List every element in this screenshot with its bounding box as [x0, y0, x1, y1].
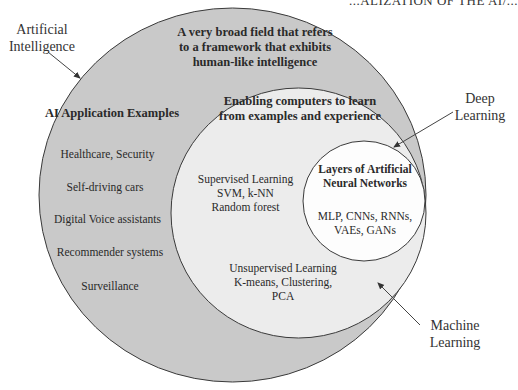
dl-label: Deep Learning [450, 91, 510, 125]
supervised-title: Supervised Learning [183, 173, 308, 187]
dl-label-line1: Deep [450, 91, 510, 108]
dl-circle [303, 141, 425, 261]
ai-label-line2: Intelligence [2, 39, 82, 56]
ai-description-line: A very broad field that refers [150, 25, 360, 40]
ml-description-line: from examples and experience [210, 109, 390, 124]
ai-description: A very broad field that refers to a fram… [150, 25, 360, 70]
ai-examples-title: AI Application Examples [45, 106, 175, 121]
ml-description-line: Enabling computers to learn [210, 94, 390, 109]
ml-label-line1: Machine [420, 318, 490, 335]
ml-unsupervised: Unsupervised Learning K-means, Clusterin… [218, 262, 348, 303]
ai-ml-dl-venn-diagram: ...ALIZATION OF THE AI/... Artificial In… [0, 0, 518, 390]
ai-arrow [48, 52, 80, 78]
ai-label: Artificial Intelligence [2, 22, 82, 56]
dl-description-line: Neural Networks [305, 177, 425, 191]
unsupervised-examples: K-means, Clustering, [218, 276, 348, 290]
ai-example-item: Surveillance [60, 280, 160, 294]
ml-label-line2: Learning [420, 335, 490, 352]
dl-examples-line: VAEs, GANs [305, 224, 425, 238]
dl-description-line: Layers of Artificial [305, 163, 425, 177]
dl-examples-line: MLP, CNNs, RNNs, [305, 210, 425, 224]
ai-example-item: Self-driving cars [45, 181, 165, 195]
ml-supervised: Supervised Learning SVM, k-NN Random for… [183, 173, 308, 214]
ml-description: Enabling computers to learn from example… [210, 94, 390, 124]
supervised-examples: Random forest [183, 201, 308, 215]
ai-example-item: Healthcare, Security [40, 148, 175, 162]
ai-example-item: Digital Voice assistants [40, 213, 175, 227]
unsupervised-examples: PCA [218, 290, 348, 304]
dl-examples: MLP, CNNs, RNNs, VAEs, GANs [305, 210, 425, 238]
ai-example-item: Recommender systems [45, 246, 175, 260]
ai-label-line1: Artificial [2, 22, 82, 39]
ml-label: Machine Learning [420, 318, 490, 352]
supervised-examples: SVM, k-NN [183, 187, 308, 201]
ai-description-line: human-like intelligence [150, 55, 360, 70]
ai-description-line: to a framework that exhibits [150, 40, 360, 55]
unsupervised-title: Unsupervised Learning [218, 262, 348, 276]
dl-label-line2: Learning [450, 108, 510, 125]
dl-description: Layers of Artificial Neural Networks [305, 163, 425, 191]
